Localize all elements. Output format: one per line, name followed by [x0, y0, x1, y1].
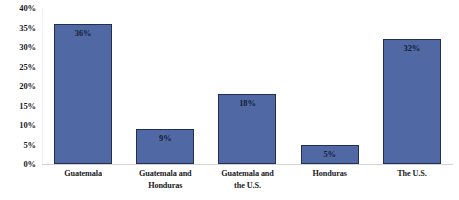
bar-value-label: 32%: [384, 43, 440, 53]
x-category-label-line: Honduras: [124, 180, 206, 192]
y-tick-label: 25%: [19, 62, 36, 72]
bar[interactable]: 9%: [136, 129, 194, 164]
bar[interactable]: 5%: [301, 145, 359, 165]
y-tick-label: 30%: [19, 42, 36, 52]
x-category-label: Guatemala andthe U.S.: [206, 168, 288, 191]
bar-value-label: 36%: [55, 28, 111, 38]
bar-slot: 5%: [289, 8, 371, 164]
y-tick-label: 5%: [23, 140, 36, 150]
y-tick-label: 10%: [19, 120, 36, 130]
bar-value-label: 18%: [219, 98, 275, 108]
plot-area: 36%9%18%5%32%: [42, 8, 453, 164]
x-category-label-line: Guatemala: [42, 168, 124, 180]
y-tick-label: 35%: [19, 23, 36, 33]
bar-slot: 36%: [42, 8, 124, 164]
bar-slot: 18%: [206, 8, 288, 164]
x-axis-baseline: [42, 164, 453, 165]
x-category-label-line: Guatemala and: [206, 168, 288, 180]
x-axis-labels: GuatemalaGuatemala andHondurasGuatemala …: [42, 168, 453, 200]
bar[interactable]: 32%: [383, 39, 441, 164]
x-category-label-line: Honduras: [289, 168, 371, 180]
bar-slot: 32%: [371, 8, 453, 164]
x-category-label-line: the U.S.: [206, 180, 288, 192]
bar-value-label: 5%: [302, 149, 358, 159]
x-category-label: Honduras: [289, 168, 371, 180]
y-tick-label: 20%: [19, 81, 36, 91]
bar-chart: 0%5%10%15%20%25%30%35%40% 36%9%18%5%32% …: [0, 0, 459, 200]
y-tick-label: 15%: [19, 101, 36, 111]
bar[interactable]: 36%: [54, 24, 112, 164]
x-category-label: Guatemala andHonduras: [124, 168, 206, 191]
y-tick-label: 0%: [23, 159, 36, 169]
bar-slot: 9%: [124, 8, 206, 164]
y-tick-label: 40%: [19, 3, 36, 13]
y-axis: 0%5%10%15%20%25%30%35%40%: [0, 0, 42, 170]
bar-value-label: 9%: [137, 133, 193, 143]
x-category-label: The U.S.: [371, 168, 453, 180]
x-category-label-line: The U.S.: [371, 168, 453, 180]
x-category-label: Guatemala: [42, 168, 124, 180]
x-category-label-line: Guatemala and: [124, 168, 206, 180]
bar[interactable]: 18%: [218, 94, 276, 164]
